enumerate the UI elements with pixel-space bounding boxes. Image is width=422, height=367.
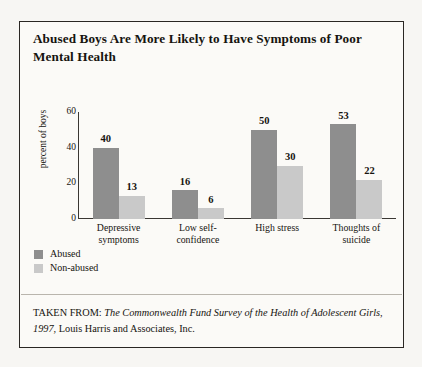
bar-value-label: 6	[208, 195, 213, 206]
category-label-line: confidence	[160, 234, 236, 246]
bar-column: 30	[277, 112, 303, 219]
category-label-line: Low self-	[160, 222, 236, 234]
category-label-line: symptoms	[81, 234, 157, 246]
bar-column: 6	[198, 112, 224, 219]
bar	[172, 190, 198, 219]
legend-label: Abused	[50, 249, 81, 259]
y-axis-title: percent of boys	[38, 94, 48, 184]
bar-column: 13	[119, 112, 145, 219]
y-axis-tick-labels: 0204060	[52, 84, 76, 219]
bar-column: 50	[251, 112, 277, 219]
category-label-line: suicide	[318, 234, 394, 246]
bar-group: 4013	[93, 112, 145, 219]
x-axis-category-labels: DepressivesymptomsLow self-confidenceHig…	[79, 222, 396, 246]
category-label: High stress	[239, 222, 315, 246]
bar-group: 166	[172, 112, 224, 219]
legend-item: Non-abused	[34, 263, 214, 273]
y-tick-label: 40	[54, 143, 76, 153]
bar	[356, 180, 382, 219]
bar-group: 5322	[330, 112, 382, 219]
bar	[198, 208, 224, 219]
bar	[277, 166, 303, 220]
source-note: TAKEN FROM: The Commonwealth Fund Survey…	[33, 305, 391, 337]
bar-value-label: 16	[180, 177, 191, 188]
figure-panel: Abused Boys Are More Likely to Have Symp…	[19, 21, 404, 348]
bar	[119, 196, 145, 219]
legend-label: Non-abused	[50, 263, 98, 273]
category-label-line: Thoughts of	[318, 222, 394, 234]
bar-group: 5030	[251, 112, 303, 219]
source-publisher: , Louis Harris and Associates, Inc.	[54, 323, 195, 334]
bar-column: 22	[356, 112, 382, 219]
chart-legend: AbusedNon-abused	[34, 249, 214, 277]
bar	[251, 130, 277, 219]
bar-column: 40	[93, 112, 119, 219]
y-tick-label: 0	[54, 214, 76, 224]
bar-value-label: 50	[259, 116, 270, 127]
y-tick-label: 20	[54, 179, 76, 189]
bar-column: 16	[172, 112, 198, 219]
legend-item: Abused	[34, 249, 214, 259]
legend-swatch	[34, 264, 43, 273]
bar	[330, 124, 356, 219]
bar-value-label: 22	[364, 166, 375, 177]
source-divider	[21, 294, 402, 295]
category-label-line: Depressive	[81, 222, 157, 234]
bar-value-label: 40	[100, 134, 111, 145]
bar-value-label: 53	[338, 111, 349, 122]
category-label: Thoughts ofsuicide	[318, 222, 394, 246]
chart-title: Abused Boys Are More Likely to Have Symp…	[33, 30, 393, 65]
category-label-line: High stress	[239, 222, 315, 234]
bar-value-label: 13	[126, 182, 137, 193]
y-tick-label: 60	[54, 107, 76, 117]
bar-value-label: 30	[285, 152, 296, 163]
bar-groups: 401316650305322	[79, 112, 396, 219]
category-label: Depressivesymptoms	[81, 222, 157, 246]
legend-swatch	[34, 250, 43, 259]
plot-area: percent of boys 0204060 401316650305322 …	[20, 84, 405, 234]
bar	[93, 148, 119, 219]
bar-column: 53	[330, 112, 356, 219]
category-label: Low self-confidence	[160, 222, 236, 246]
source-prefix: TAKEN FROM:	[33, 307, 104, 318]
